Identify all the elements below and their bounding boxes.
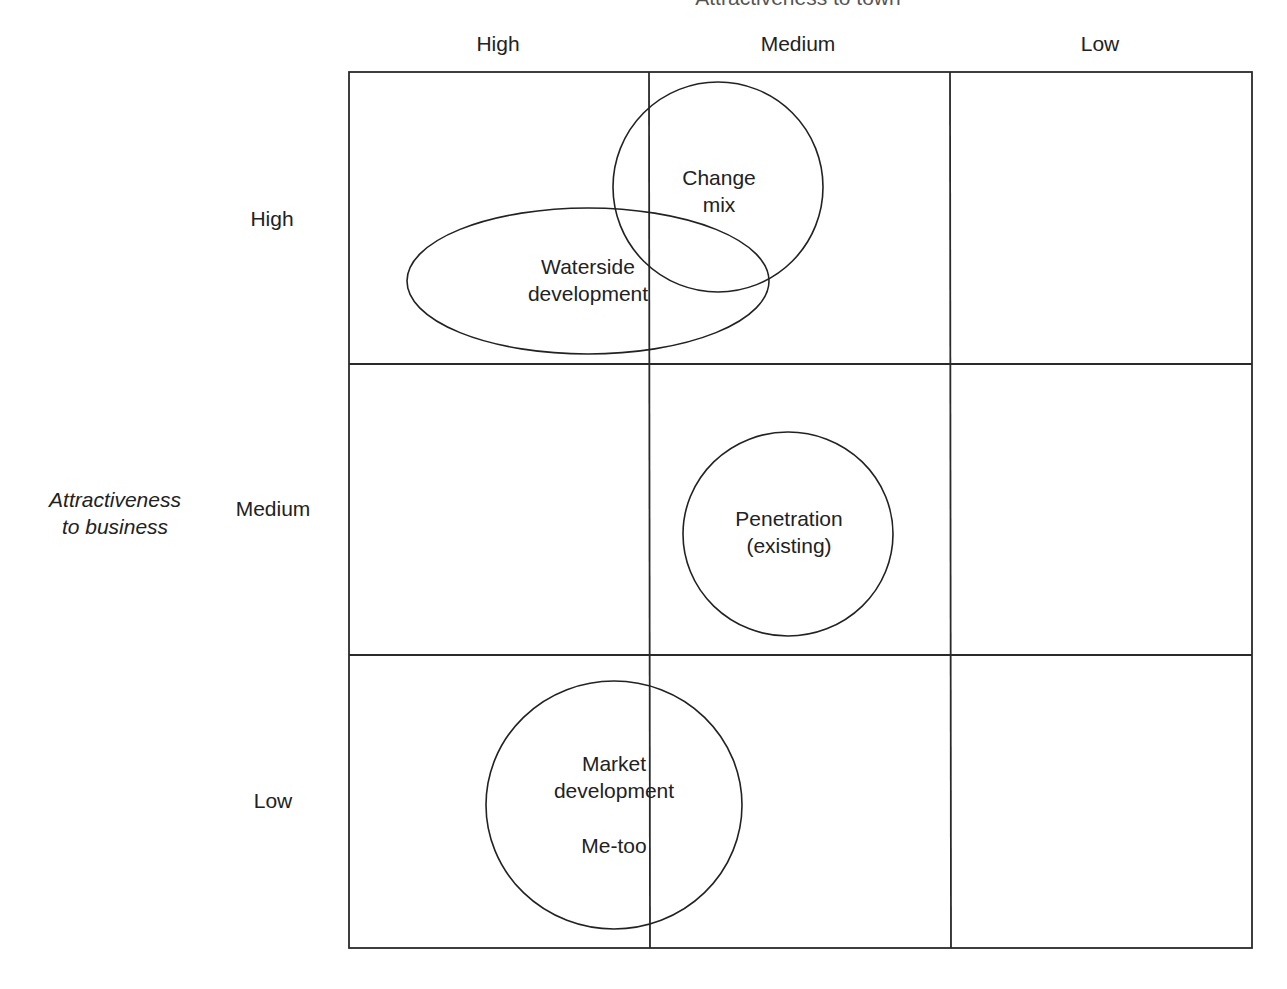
market-label-line1: Market (554, 750, 674, 777)
penetration-label-line2: (existing) (735, 532, 842, 559)
change-mix-label: Change mix (682, 164, 756, 218)
change-mix-label-line2: mix (682, 191, 756, 218)
me-too-label: Me-too (554, 832, 674, 859)
waterside-label-line2: development (528, 280, 648, 307)
waterside-label-line1: Waterside (528, 253, 648, 280)
change-mix-label-line1: Change (682, 164, 756, 191)
penetration-label-line1: Penetration (735, 505, 842, 532)
penetration-existing-label: Penetration (existing) (735, 505, 842, 559)
waterside-development-label: Waterside development (528, 253, 648, 307)
grid-col-divider-2 (950, 72, 951, 948)
market-development-label: Market development Me-too (554, 750, 674, 859)
market-label-line2: development (554, 777, 674, 804)
